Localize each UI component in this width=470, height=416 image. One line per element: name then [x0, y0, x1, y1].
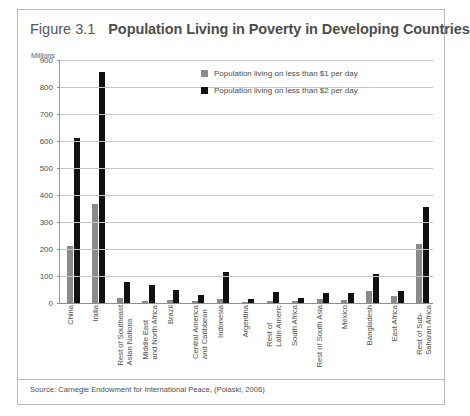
x-axis-tick-label: South Africa: [291, 305, 300, 346]
x-axis-tick-label: Argentina: [242, 305, 251, 338]
chart-legend: Population living on less than $1 per da…: [201, 69, 358, 103]
y-axis-tick-label: 700: [40, 110, 53, 119]
gridline: [60, 141, 433, 142]
bar-group: [67, 60, 80, 303]
y-axis-tickmark: [57, 303, 60, 304]
y-axis-tickmark: [57, 276, 60, 277]
y-axis-tick-label: 100: [40, 272, 53, 281]
bar-series2: [124, 282, 130, 303]
y-axis-tick-label: 800: [40, 83, 53, 92]
gridline: [60, 114, 433, 115]
x-axis-tick-label: Rest of South Asia: [316, 305, 325, 367]
bar-series2: [323, 293, 329, 303]
y-axis-tickmark: [57, 195, 60, 196]
y-axis-tick-label: 0: [49, 299, 53, 308]
gridline: [60, 60, 433, 61]
y-axis-tickmark: [57, 60, 60, 61]
legend-item-series1: Population living on less than $1 per da…: [201, 69, 358, 78]
bar-group: [142, 60, 155, 303]
footer-divider: [18, 379, 444, 380]
x-axis-tick-label: Indonesia: [217, 305, 226, 338]
y-axis-tick-label: 900: [40, 56, 53, 65]
bar-series2: [149, 285, 155, 303]
bar-series1: [92, 204, 98, 303]
bar-series2: [273, 292, 279, 303]
figure-title-row: Figure 3.1Population Living in Poverty i…: [30, 20, 470, 38]
legend-swatch-icon: [201, 87, 208, 94]
y-axis-tickmark: [57, 222, 60, 223]
x-axis-labels: ChinaIndiaRest of Southeast Asian Nation…: [59, 305, 433, 416]
legend-swatch-icon: [201, 70, 208, 77]
bar-group: [366, 60, 379, 303]
y-axis-tick-label: 200: [40, 245, 53, 254]
x-axis-tick-label: India: [92, 305, 101, 321]
y-axis-tick-label: 400: [40, 191, 53, 200]
bar-group: [391, 60, 404, 303]
y-axis-tickmark: [57, 87, 60, 88]
x-axis-tick-label: Brazil: [167, 305, 176, 324]
gridline: [60, 168, 433, 169]
bar-group: [92, 60, 105, 303]
x-axis-tick-label: Bangladesh: [366, 305, 375, 345]
bar-series2: [373, 274, 379, 303]
x-axis-tick-label: Rest of Southeast Asian Nations: [117, 305, 134, 365]
bar-series1: [366, 291, 372, 303]
y-axis-tick-label: 500: [40, 164, 53, 173]
page-title: Population Living in Poverty in Developi…: [108, 21, 469, 37]
bar-series2: [223, 272, 229, 303]
x-axis-tick-label: Middle East and North Africa: [142, 305, 159, 359]
bar-group: [167, 60, 180, 303]
y-axis-tickmark: [57, 249, 60, 250]
y-axis: 0100200300400500600700800900: [31, 60, 57, 303]
x-axis-tick-label: Mexico: [341, 305, 350, 329]
gridline: [60, 303, 433, 304]
figure-number: Figure 3.1: [30, 21, 95, 37]
source-note: Source: Carnegie Endowment for Internati…: [30, 385, 265, 394]
gridline: [60, 222, 433, 223]
legend-label-series2: Population living on less than $2 per da…: [214, 86, 358, 95]
bar-group: [117, 60, 130, 303]
figure-frame: Figure 3.1Population Living in Poverty i…: [17, 9, 445, 405]
bar-series2: [99, 72, 105, 303]
bar-group: [416, 60, 429, 303]
bar-series2: [173, 290, 179, 304]
gridline: [60, 276, 433, 277]
gridline: [60, 249, 433, 250]
x-axis-tick-label: East Africa: [391, 305, 400, 341]
y-axis-tickmark: [57, 168, 60, 169]
x-axis-tick-label: Rest of Latin Americ: [266, 305, 283, 347]
y-axis-tickmark: [57, 141, 60, 142]
x-axis-tick-label: Rest of Sub- Saharan Africa: [416, 305, 433, 355]
x-axis-tick-label: Central America and Caribbean: [192, 305, 209, 359]
legend-label-series1: Population living on less than $1 per da…: [214, 69, 358, 78]
y-axis-tickmark: [57, 114, 60, 115]
bar-series2: [398, 291, 404, 303]
legend-item-series2: Population living on less than $2 per da…: [201, 86, 358, 95]
x-axis-tick-label: China: [67, 305, 76, 325]
gridline: [60, 195, 433, 196]
bar-series1: [416, 244, 422, 303]
y-axis-tick-label: 300: [40, 218, 53, 227]
y-axis-tick-label: 600: [40, 137, 53, 146]
